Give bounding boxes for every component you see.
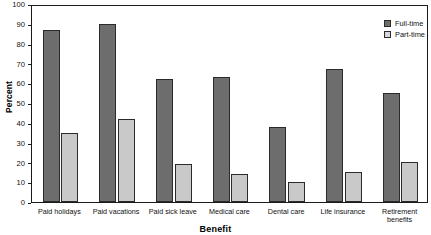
x-axis-tick-label: Paid vacations — [88, 208, 145, 216]
bar — [61, 133, 78, 202]
y-axis-tick-label: 0 — [3, 199, 25, 207]
x-axis-tick-label: Life insurance — [315, 208, 372, 216]
y-axis-tick-label: 90 — [3, 21, 25, 29]
y-axis-tick-label: 60 — [3, 80, 25, 88]
bar — [288, 182, 305, 202]
bar — [269, 127, 286, 202]
plot-area: Full-time Part-time — [31, 5, 428, 203]
bar — [345, 172, 362, 202]
bar — [156, 79, 173, 202]
bar — [401, 162, 418, 202]
x-axis-tick-label: Paid sick leave — [144, 208, 201, 216]
x-axis-title: Benefit — [0, 224, 431, 234]
bar — [326, 69, 343, 202]
x-axis-tick-label: Dental care — [258, 208, 315, 216]
x-axis-tick-label: Paid holidays — [31, 208, 88, 216]
x-axis-tick-label: Retirement benefits — [371, 208, 428, 224]
y-axis-tick-label: 30 — [3, 140, 25, 148]
bar — [213, 77, 230, 202]
legend-label-full-time: Full-time — [395, 20, 423, 28]
y-axis-tick-mark — [28, 203, 31, 204]
y-axis-tick-label: 20 — [3, 160, 25, 168]
y-axis-tick-label: 70 — [3, 61, 25, 69]
x-axis-tick-label: Medical care — [201, 208, 258, 216]
legend-swatch-full-time — [384, 20, 391, 27]
bar — [43, 30, 60, 202]
legend-item-part-time: Part-time — [384, 29, 431, 40]
y-axis-tick-label: 10 — [3, 179, 25, 187]
bar-chart: Percent 0102030405060708090100 Full-time… — [0, 0, 431, 235]
bar — [383, 93, 400, 202]
y-axis-tick-label: 50 — [3, 100, 25, 108]
bar — [231, 174, 248, 202]
legend-label-part-time: Part-time — [395, 31, 425, 39]
y-axis-tick-label: 100 — [3, 1, 25, 9]
legend-item-full-time: Full-time — [384, 18, 431, 29]
y-axis-title: Percent — [4, 67, 14, 127]
legend: Full-time Part-time — [384, 18, 431, 40]
legend-swatch-part-time — [384, 31, 391, 38]
bar — [118, 119, 135, 202]
y-axis-tick-label: 80 — [3, 41, 25, 49]
y-axis-tick-label: 40 — [3, 120, 25, 128]
bar — [175, 164, 192, 202]
bar — [99, 24, 116, 202]
